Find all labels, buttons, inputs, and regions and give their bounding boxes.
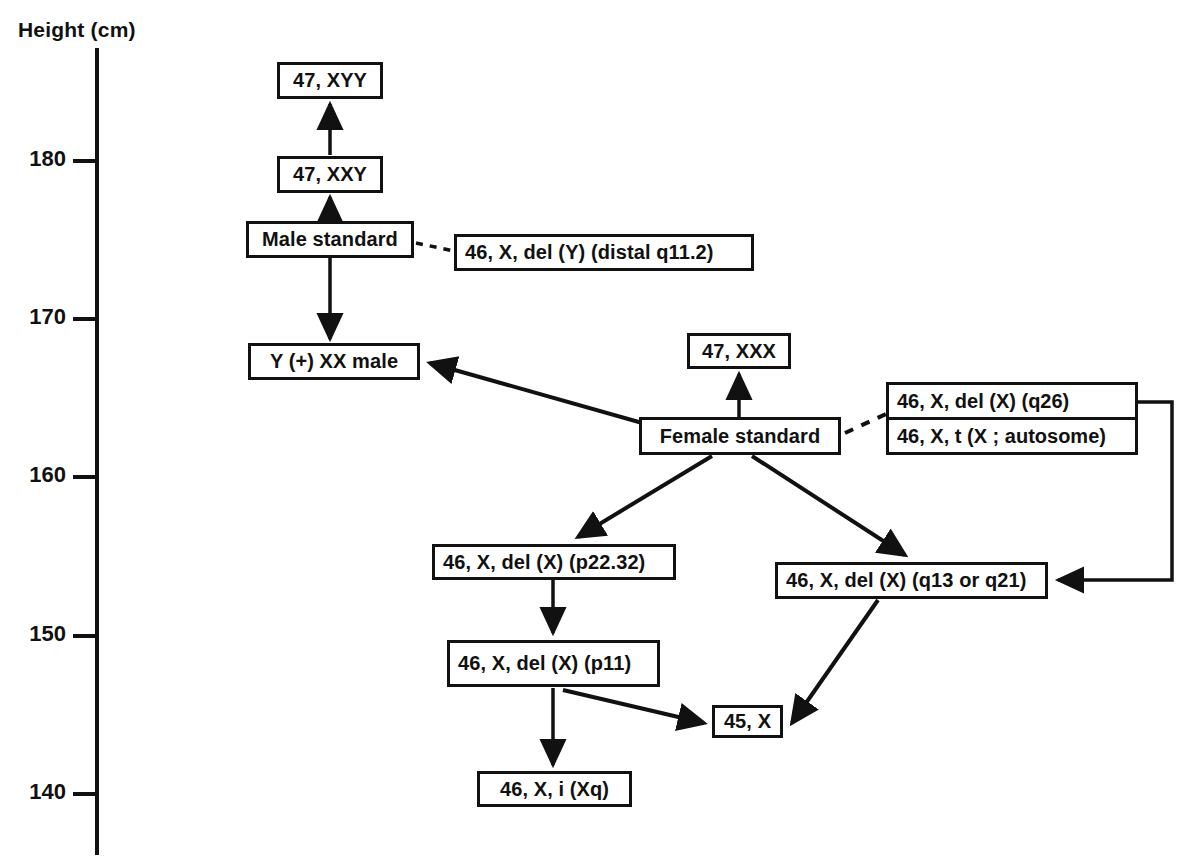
node-46-x-del-x-p22-32[interactable]: 46, X, del (X) (p22.32)	[432, 544, 676, 580]
edge-female-to-yxxmale	[430, 363, 660, 428]
edge-male-to-dely-dashed	[416, 243, 454, 251]
edge-q13q21-to-45x	[792, 600, 878, 723]
node-female-standard[interactable]: Female standard	[639, 417, 841, 455]
node-46-x-i-xq[interactable]: 46, X, i (Xq)	[477, 771, 632, 807]
edge-female-to-delx-q13q21	[752, 456, 905, 555]
node-45-x[interactable]: 45, X	[712, 705, 783, 738]
node-y-plus-xx-male[interactable]: Y (+) XX male	[248, 343, 420, 380]
edge-p11-to-45x	[563, 690, 704, 723]
node-46-x-del-x-q26[interactable]: 46, X, del (X) (q26)	[889, 385, 1135, 417]
node-46-x-del-x-q13-or-q21[interactable]: 46, X, del (X) (q13 or q21)	[775, 562, 1048, 599]
node-46-x-del-x-p11[interactable]: 46, X, del (X) (p11)	[447, 640, 660, 687]
node-47-xyy[interactable]: 47, XYY	[277, 62, 383, 99]
node-46-x-del-y-distal-q11-2[interactable]: 46, X, del (Y) (distal q11.2)	[454, 234, 754, 271]
node-47-xxy[interactable]: 47, XXY	[277, 156, 383, 193]
karyotype-height-diagram: Height (cm) 180 170 160 150 140	[0, 0, 1192, 862]
node-46-x-t-x-autosome[interactable]: 46, X, t (X ; autosome)	[889, 417, 1135, 452]
node-stack-x-anomalies[interactable]: 46, X, del (X) (q26) 46, X, t (X ; autos…	[886, 382, 1138, 455]
node-male-standard[interactable]: Male standard	[246, 221, 414, 258]
node-47-xxx[interactable]: 47, XXX	[687, 333, 791, 369]
edge-female-to-delx-p2232	[578, 456, 712, 537]
edge-female-to-delx-q26-dashed	[845, 414, 886, 433]
